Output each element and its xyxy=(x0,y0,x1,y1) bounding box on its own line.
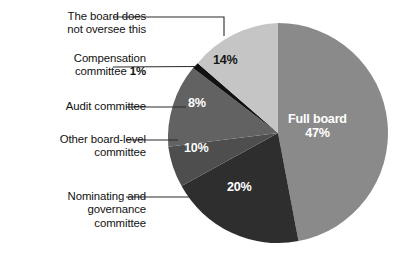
callout-no-oversight-line1: The board does xyxy=(6,10,146,23)
callout-nominating-line1: Nominating and xyxy=(6,190,146,203)
callout-nominating-line3: committee xyxy=(6,217,146,230)
callout-compensation-line1: Compensation xyxy=(6,52,146,65)
callout-compensation-line2: committee 1% xyxy=(6,65,146,78)
callout-compensation-percent: 1% xyxy=(130,65,146,77)
callout-nominating-line2: governance xyxy=(6,203,146,216)
pie-chart: The board does not oversee this Compensa… xyxy=(0,0,396,256)
callout-label-nominating: Nominating and governance committee xyxy=(6,190,146,230)
slice-value-nominating: 20% xyxy=(227,180,252,194)
callout-compensation-word: committee xyxy=(75,65,127,77)
callout-other-line1: Other board-level xyxy=(6,133,146,146)
callout-other-line2: committee xyxy=(6,146,146,159)
callout-no-oversight-line2: not oversee this xyxy=(6,23,146,36)
callout-label-other: Other board-level committee xyxy=(6,133,146,160)
callout-label-audit: Audit committee xyxy=(6,100,146,113)
slice-value-full-board: 47% xyxy=(288,126,347,140)
slice-value-other: 10% xyxy=(184,141,209,155)
slice-label-full-board-name: Full board xyxy=(288,112,347,126)
callout-audit-text: Audit committee xyxy=(6,100,146,113)
slice-label-full-board: Full board 47% xyxy=(288,112,347,140)
callout-label-no-oversight: The board does not oversee this xyxy=(6,10,146,37)
slice-value-audit: 8% xyxy=(188,96,206,110)
slice-value-no-oversight: 14% xyxy=(213,53,238,67)
callout-label-compensation: Compensation committee 1% xyxy=(6,52,146,79)
